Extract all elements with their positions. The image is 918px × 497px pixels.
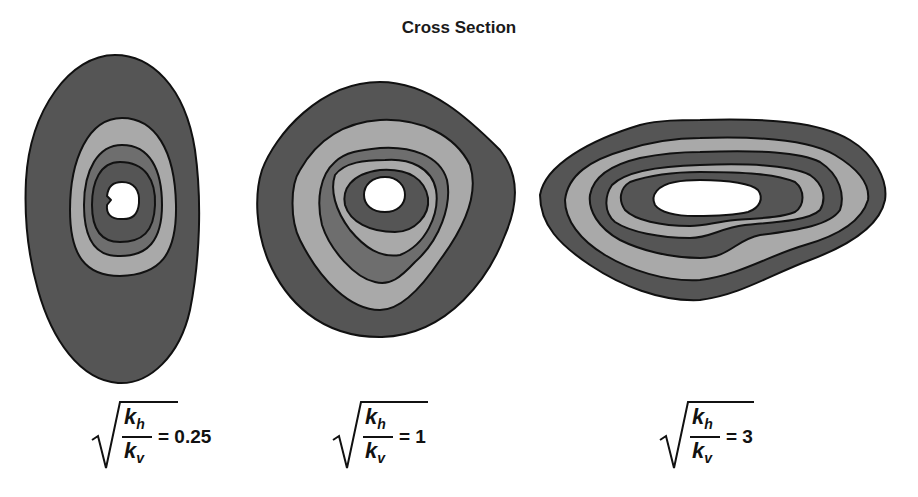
formula-labels: kh kv = 0.25 kh kv = 1 kh kv = 3: [0, 400, 918, 470]
ratio-value-1: = 0.25: [158, 426, 211, 448]
ratio-value-2: = 1: [399, 426, 426, 448]
denominator-3: kv: [692, 438, 712, 466]
numerator-3: kh: [692, 404, 713, 432]
denominator-1: kv: [124, 438, 144, 466]
numerator-1: kh: [124, 404, 145, 432]
contour-plot-ratio-0-25: [26, 55, 200, 383]
numerator-2: kh: [365, 404, 386, 432]
ratio-value-3: = 3: [726, 426, 753, 448]
contour-plot-ratio-1: [257, 82, 515, 337]
contour-plot-ratio-3: [540, 120, 885, 301]
denominator-2: kv: [365, 438, 385, 466]
